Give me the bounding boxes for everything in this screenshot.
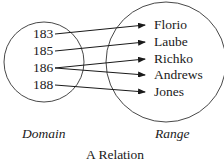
arrow-183-florio [55, 25, 145, 34]
range-item-richko: Richko [154, 52, 193, 66]
arrow-188-jones [55, 85, 145, 92]
arrow-185-laube [55, 42, 145, 51]
caption: A Relation [86, 148, 144, 162]
range-item-florio: Florio [154, 18, 187, 32]
domain-item-186: 186 [33, 61, 53, 75]
range-item-laube: Laube [154, 35, 188, 49]
range-item-andrews: Andrews [154, 68, 203, 82]
range-item-jones: Jones [154, 85, 184, 99]
relation-diagram: 183 185 186 188 Florio Laube Richko Andr… [0, 0, 224, 163]
arrow-186-richko [55, 59, 145, 68]
domain-item-188: 188 [33, 78, 53, 92]
range-label: Range [155, 127, 190, 141]
domain-item-185: 185 [33, 44, 53, 58]
domain-label: Domain [22, 127, 66, 141]
domain-item-183: 183 [33, 27, 53, 41]
arrow-186-andrews [55, 68, 145, 75]
